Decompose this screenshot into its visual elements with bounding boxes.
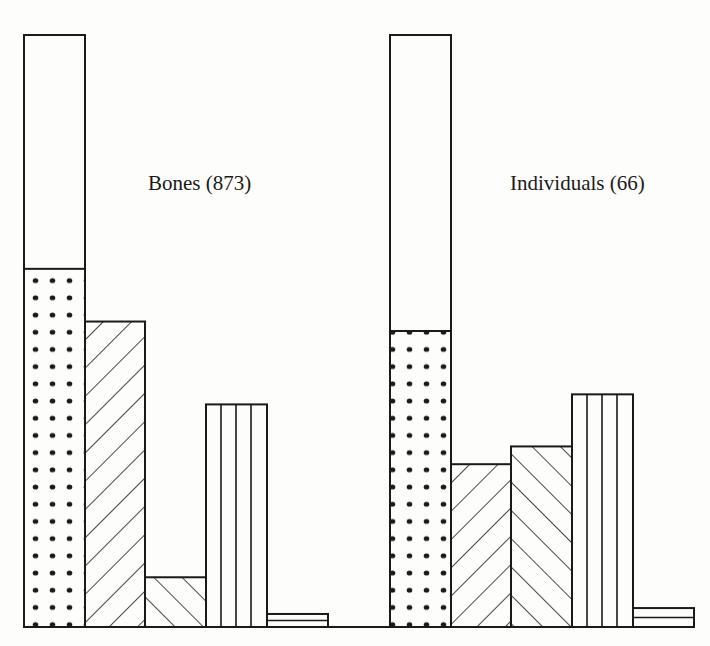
bar-chart-svg: Bones (873) Individuals (66) xyxy=(0,0,710,646)
bar-back-hatched xyxy=(511,446,572,627)
bar-back-hatched xyxy=(145,577,206,627)
bar-dotted-segment xyxy=(24,269,85,627)
bar-dotted-segment xyxy=(390,331,451,627)
bar-group-bones xyxy=(24,35,328,627)
bar-forward-hatched xyxy=(85,322,145,627)
bar-forward-hatched xyxy=(451,464,511,627)
bar-group-individuals xyxy=(390,35,694,627)
group-label-bones: Bones (873) xyxy=(148,171,251,195)
group-label-individuals: Individuals (66) xyxy=(510,171,645,195)
chart: Bones (873) Individuals (66) xyxy=(0,0,710,646)
bars-layer xyxy=(24,35,694,627)
